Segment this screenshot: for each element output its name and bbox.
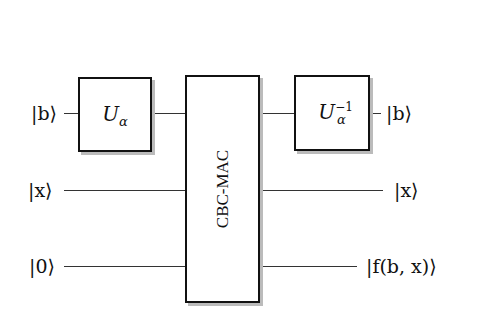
input-label-b: |b⟩ [31,102,57,124]
output-label-b: |b⟩ [386,102,412,124]
wire-b-mid [151,113,186,114]
wire-zero-in [64,266,186,267]
output-label-f: |f(b, x)⟩ [366,255,437,277]
gate-cbc-mac-label: CBC-MAC [213,150,233,228]
input-label-zero: |0⟩ [29,255,55,277]
gate-u-alpha-label: Uα [80,101,150,128]
wire-b-mid2 [259,113,295,114]
gate-cbc-mac: CBC-MAC [185,75,260,303]
wire-x-out [259,190,383,191]
gate-u-alpha-inverse: U−1α [294,75,370,151]
wire-x-in [64,190,186,191]
output-label-x: |x⟩ [394,179,419,201]
wire-b-out [369,113,381,114]
input-label-x: |x⟩ [28,179,53,201]
gate-u-alpha-inverse-label: U−1α [296,100,368,127]
wire-f-out [259,266,357,267]
gate-u-alpha: Uα [78,77,152,152]
